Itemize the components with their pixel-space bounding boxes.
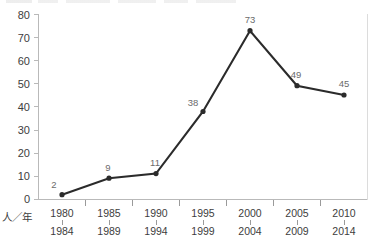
data-label-1: 9 <box>105 162 110 173</box>
x-label-bottom-6: 2014 <box>332 225 356 237</box>
x-axis-ticks <box>86 200 321 207</box>
y-tick-label-70: 70 <box>18 32 30 44</box>
data-point-6 <box>341 92 346 97</box>
data-label-5: 49 <box>291 69 302 80</box>
y-tick-label-80: 80 <box>18 9 30 21</box>
data-point-2 <box>153 171 158 176</box>
data-series-markers <box>59 28 346 197</box>
x-label-top-0: 1980 <box>50 207 74 219</box>
data-point-1 <box>106 176 111 181</box>
x-label-top-3: 1995 <box>191 207 215 219</box>
x-label-bottom-1: 1989 <box>97 225 121 237</box>
chart-plot-area: 80 70 60 50 40 30 20 10 0 <box>0 0 375 242</box>
y-tick-label-30: 30 <box>18 124 30 136</box>
x-label-top-1: 1985 <box>97 207 121 219</box>
x-label-bottom-5: 2009 <box>285 225 309 237</box>
y-axis-unit-label: 人／年 <box>2 211 32 223</box>
data-point-0 <box>59 192 64 197</box>
line-chart: 80 70 60 50 40 30 20 10 0 <box>0 0 375 242</box>
y-tick-label-40: 40 <box>18 101 30 113</box>
data-label-6: 45 <box>339 78 350 89</box>
x-label-bottom-0: 1984 <box>50 225 74 237</box>
x-axis-category-labels: 1980 1984 1985 1989 1990 1994 1995 1999 … <box>50 207 356 237</box>
y-tick-label-10: 10 <box>18 170 30 182</box>
data-point-5 <box>294 83 299 88</box>
x-label-top-4: 2000 <box>238 207 262 219</box>
x-label-bottom-2: 1994 <box>144 225 168 237</box>
x-label-bottom-3: 1999 <box>191 225 215 237</box>
data-label-3: 38 <box>188 97 199 108</box>
y-tick-label-0: 0 <box>24 193 30 205</box>
data-point-4 <box>247 28 252 33</box>
data-point-3 <box>200 109 205 114</box>
x-label-bottom-4: 2004 <box>238 225 262 237</box>
data-label-2: 11 <box>150 157 160 168</box>
y-tick-label-60: 60 <box>18 55 30 67</box>
data-label-4: 73 <box>245 14 256 25</box>
x-label-top-5: 2005 <box>285 207 309 219</box>
y-axis-ticks: 80 70 60 50 40 30 20 10 0 <box>18 9 39 206</box>
y-tick-label-20: 20 <box>18 147 30 159</box>
data-point-labels: 2 9 11 38 73 49 45 <box>51 14 349 190</box>
y-tick-label-50: 50 <box>18 78 30 90</box>
x-label-top-6: 2010 <box>332 207 356 219</box>
data-label-0: 2 <box>51 179 56 190</box>
x-label-top-2: 1990 <box>144 207 168 219</box>
